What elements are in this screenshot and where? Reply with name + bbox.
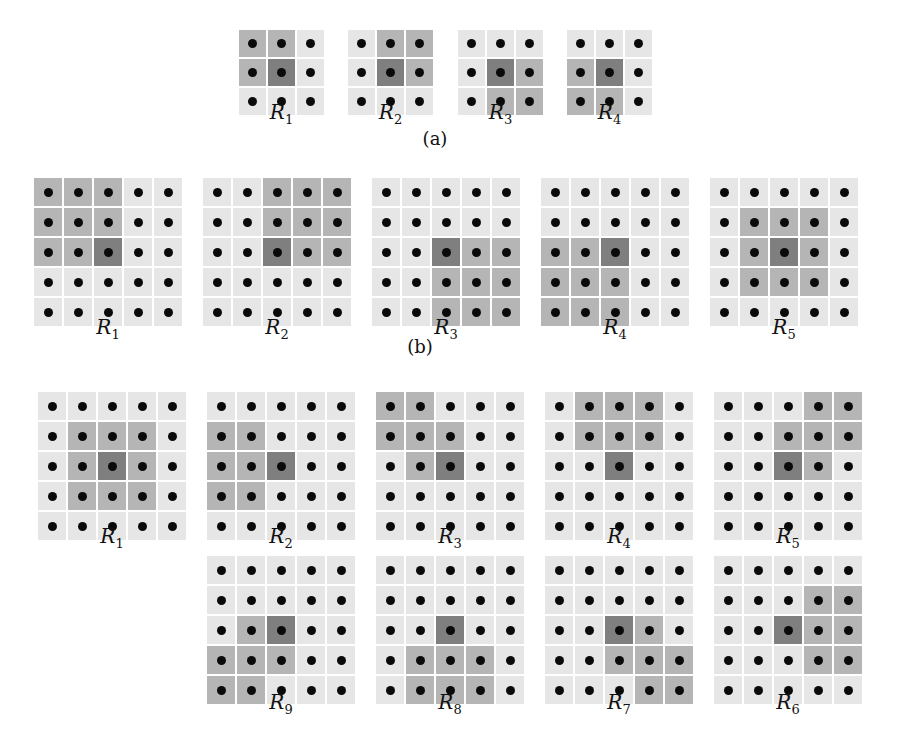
dot-icon bbox=[645, 402, 654, 411]
grid-cell bbox=[402, 178, 430, 206]
dot-icon bbox=[675, 686, 684, 695]
dot-icon bbox=[446, 596, 455, 605]
grid-cell bbox=[268, 59, 295, 86]
dot-icon bbox=[506, 522, 515, 531]
dot-icon bbox=[217, 596, 226, 605]
grid-cell bbox=[740, 238, 768, 266]
dot-icon bbox=[605, 68, 614, 77]
grid-cell bbox=[545, 586, 573, 614]
grid-cell bbox=[406, 556, 434, 584]
grid-cell bbox=[804, 586, 832, 614]
grid-cell bbox=[804, 616, 832, 644]
region-grid-2-2 bbox=[203, 178, 351, 326]
dot-icon bbox=[844, 596, 853, 605]
dot-icon bbox=[472, 248, 481, 257]
dot-icon bbox=[720, 188, 729, 197]
dot-icon bbox=[333, 308, 342, 317]
dot-icon bbox=[814, 462, 823, 471]
grid-cell bbox=[714, 392, 742, 420]
grid-cell bbox=[605, 556, 633, 584]
grid-cell bbox=[834, 556, 862, 584]
dot-icon bbox=[386, 492, 395, 501]
dot-icon bbox=[382, 188, 391, 197]
dot-icon bbox=[104, 218, 113, 227]
grid-cell bbox=[665, 646, 693, 674]
dot-icon bbox=[386, 68, 395, 77]
region-index: 2 bbox=[280, 327, 288, 342]
dot-icon bbox=[247, 566, 256, 575]
grid-cell bbox=[297, 482, 325, 510]
grid-cell bbox=[124, 238, 152, 266]
grid-cell bbox=[804, 392, 832, 420]
grid-cell bbox=[575, 616, 603, 644]
grid-cell bbox=[376, 482, 404, 510]
grid-cell bbox=[128, 482, 156, 510]
region-index: 1 bbox=[285, 112, 293, 127]
dot-icon bbox=[74, 188, 83, 197]
grid-cell bbox=[458, 59, 485, 86]
grid-cell bbox=[297, 452, 325, 480]
dot-icon bbox=[467, 39, 476, 48]
region-index: 2 bbox=[394, 112, 402, 127]
region-symbol: R bbox=[772, 315, 787, 339]
grid-cell bbox=[744, 482, 772, 510]
grid-cell bbox=[406, 586, 434, 614]
dot-icon bbox=[844, 402, 853, 411]
grid-cell bbox=[128, 422, 156, 450]
grid-cell bbox=[740, 178, 768, 206]
grid-cell bbox=[496, 392, 524, 420]
dot-icon bbox=[750, 248, 759, 257]
grid-cell bbox=[94, 208, 122, 236]
region-symbol: R bbox=[265, 315, 280, 339]
grid-cell bbox=[237, 482, 265, 510]
grid-cell bbox=[466, 646, 494, 674]
grid-cell bbox=[466, 482, 494, 510]
dot-icon bbox=[724, 432, 733, 441]
grid-cell bbox=[710, 178, 738, 206]
grid-cell bbox=[128, 392, 156, 420]
dot-icon bbox=[754, 566, 763, 575]
dot-icon bbox=[306, 39, 315, 48]
region-symbol: R bbox=[269, 690, 284, 714]
grid-cell bbox=[496, 556, 524, 584]
dot-icon bbox=[551, 188, 560, 197]
grid-cell bbox=[207, 422, 235, 450]
grid-cell bbox=[744, 452, 772, 480]
grid-cell bbox=[64, 208, 92, 236]
dot-icon bbox=[307, 462, 316, 471]
dot-icon bbox=[675, 402, 684, 411]
grid-cell bbox=[714, 646, 742, 674]
region-label: R5 bbox=[744, 315, 824, 342]
grid-cell bbox=[297, 616, 325, 644]
dot-icon bbox=[641, 188, 650, 197]
grid-cell bbox=[297, 422, 325, 450]
grid-cell bbox=[94, 268, 122, 296]
grid-cell bbox=[293, 178, 321, 206]
dot-icon bbox=[502, 248, 511, 257]
grid-cell bbox=[800, 208, 828, 236]
dot-icon bbox=[217, 656, 226, 665]
dot-icon bbox=[168, 462, 177, 471]
grid-cell bbox=[545, 676, 573, 704]
grid-cell bbox=[744, 616, 772, 644]
grid-cell bbox=[68, 482, 96, 510]
grid-cell bbox=[154, 208, 182, 236]
dot-icon bbox=[476, 432, 485, 441]
grid-cell bbox=[466, 586, 494, 614]
region-label: R8 bbox=[410, 690, 490, 717]
region-label: R1 bbox=[242, 100, 322, 127]
grid-cell bbox=[154, 298, 182, 326]
dot-icon bbox=[641, 278, 650, 287]
grid-cell bbox=[774, 392, 802, 420]
grid-cell bbox=[774, 482, 802, 510]
dot-icon bbox=[754, 402, 763, 411]
grid-cell bbox=[605, 392, 633, 420]
dot-icon bbox=[525, 39, 534, 48]
grid-cell bbox=[770, 238, 798, 266]
dot-icon bbox=[724, 596, 733, 605]
dot-icon bbox=[217, 402, 226, 411]
region-index: 1 bbox=[115, 536, 123, 551]
grid-cell bbox=[661, 298, 689, 326]
dot-icon bbox=[74, 248, 83, 257]
dot-icon bbox=[213, 248, 222, 257]
